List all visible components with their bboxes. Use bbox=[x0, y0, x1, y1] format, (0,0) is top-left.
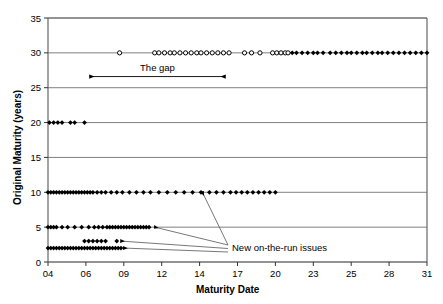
on-the-run-leader-line bbox=[155, 227, 228, 245]
data-point bbox=[189, 51, 193, 55]
data-point bbox=[195, 51, 199, 55]
data-point bbox=[256, 190, 261, 195]
y-tick-label: 10 bbox=[30, 187, 41, 198]
data-point bbox=[239, 190, 244, 195]
data-point bbox=[300, 50, 305, 55]
data-point bbox=[96, 225, 101, 230]
data-point bbox=[207, 190, 212, 195]
data-point bbox=[262, 190, 267, 195]
data-point bbox=[92, 225, 97, 230]
data-points-group bbox=[46, 50, 430, 250]
data-point bbox=[245, 190, 250, 195]
data-point bbox=[147, 225, 152, 230]
data-point bbox=[360, 50, 365, 55]
data-point bbox=[183, 51, 187, 55]
data-point bbox=[51, 120, 56, 125]
on-the-run-leader-line bbox=[124, 248, 228, 252]
data-point bbox=[242, 51, 246, 55]
y-axis-title: Original Maturity (years) bbox=[12, 90, 23, 205]
data-point bbox=[119, 246, 124, 251]
data-point bbox=[82, 239, 87, 244]
data-point bbox=[227, 51, 231, 55]
data-point bbox=[345, 50, 350, 55]
data-point bbox=[391, 50, 396, 55]
data-point bbox=[349, 50, 354, 55]
data-point bbox=[173, 190, 178, 195]
data-point bbox=[148, 190, 153, 195]
y-axis-ticks-group: 05101520253035 bbox=[30, 13, 48, 268]
data-point bbox=[86, 225, 91, 230]
data-point bbox=[86, 239, 91, 244]
data-point bbox=[205, 51, 209, 55]
data-point bbox=[156, 190, 161, 195]
data-point bbox=[178, 51, 182, 55]
data-point bbox=[234, 190, 239, 195]
data-point bbox=[100, 225, 105, 230]
data-point bbox=[328, 50, 333, 55]
data-point bbox=[99, 239, 104, 244]
data-point bbox=[214, 190, 219, 195]
x-tick-label: 17 bbox=[232, 268, 243, 279]
data-point bbox=[290, 50, 295, 55]
data-point bbox=[127, 190, 132, 195]
x-tick-label: 06 bbox=[81, 268, 92, 279]
data-point bbox=[68, 120, 73, 125]
data-point bbox=[354, 50, 359, 55]
data-point bbox=[221, 51, 225, 55]
data-point bbox=[72, 225, 77, 230]
data-point bbox=[114, 190, 119, 195]
data-point bbox=[321, 50, 326, 55]
data-point bbox=[258, 51, 262, 55]
data-point bbox=[425, 50, 430, 55]
x-tick-label: 14 bbox=[194, 268, 205, 279]
data-point bbox=[117, 51, 121, 55]
data-point bbox=[165, 190, 170, 195]
data-point bbox=[134, 190, 139, 195]
data-point bbox=[162, 51, 166, 55]
data-point bbox=[315, 50, 320, 55]
data-point bbox=[103, 239, 108, 244]
data-point bbox=[216, 51, 220, 55]
x-tick-label: 31 bbox=[422, 268, 433, 279]
x-tick-label: 09 bbox=[119, 268, 130, 279]
y-tick-label: 5 bbox=[36, 222, 41, 233]
x-tick-label: 25 bbox=[346, 268, 357, 279]
x-tick-label: 28 bbox=[384, 268, 395, 279]
data-point bbox=[182, 190, 187, 195]
plot-frame bbox=[48, 18, 427, 262]
x-axis-title: Maturity Date bbox=[196, 284, 259, 295]
data-point bbox=[294, 50, 299, 55]
data-point bbox=[375, 50, 380, 55]
data-point bbox=[210, 51, 214, 55]
data-point bbox=[91, 239, 96, 244]
data-point bbox=[120, 190, 125, 195]
data-point bbox=[190, 190, 195, 195]
y-tick-label: 20 bbox=[30, 117, 41, 128]
x-tick-label: 20 bbox=[270, 268, 281, 279]
data-point bbox=[157, 51, 161, 55]
y-tick-label: 25 bbox=[30, 82, 41, 93]
data-point bbox=[249, 51, 253, 55]
data-point bbox=[286, 51, 290, 55]
data-point bbox=[397, 50, 402, 55]
data-point bbox=[60, 120, 65, 125]
y-tick-label: 15 bbox=[30, 152, 41, 163]
data-point bbox=[333, 50, 338, 55]
data-point bbox=[311, 50, 316, 55]
data-point bbox=[114, 239, 119, 244]
data-point bbox=[267, 190, 272, 195]
on-the-run-leader-line bbox=[121, 241, 228, 248]
data-point bbox=[370, 50, 375, 55]
data-point bbox=[275, 51, 279, 55]
data-point bbox=[141, 190, 146, 195]
data-point bbox=[79, 225, 84, 230]
y-tick-label: 0 bbox=[36, 257, 41, 268]
x-axis-ticks-group: 0406091214172023252831 bbox=[43, 262, 433, 279]
data-point bbox=[339, 50, 344, 55]
data-point bbox=[60, 225, 65, 230]
chart-figure: 0406091214172023252831 05101520253035 Th… bbox=[0, 0, 443, 304]
data-point bbox=[172, 51, 176, 55]
data-point bbox=[95, 190, 100, 195]
chart-plot-area: 0406091214172023252831 05101520253035 Th… bbox=[0, 0, 443, 304]
data-point bbox=[419, 50, 424, 55]
